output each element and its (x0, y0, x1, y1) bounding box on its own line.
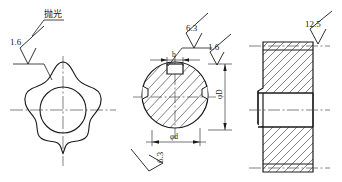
roughness-label-5: 12.5 (305, 19, 321, 29)
bore-diameter-label: φd (170, 132, 178, 141)
roughness-label-4: 6.3 (155, 151, 165, 163)
front-view-knob: 1.6 抛光 (10, 8, 116, 166)
roughness-label-2: 6.3 (186, 23, 198, 33)
shaft-right-notch (202, 86, 208, 99)
knob-finish-leader-line (13, 64, 52, 80)
polish-note-label: 抛光 (44, 8, 62, 19)
roughness-label-1: 1.6 (10, 37, 22, 47)
hub-bore-cavity (259, 94, 312, 126)
roughness-symbol-1 (20, 26, 44, 64)
section-view-shaft: b 6.3 1.6 φD (100, 13, 240, 182)
outer-diameter-label: φD (215, 89, 224, 99)
engineering-drawing-canvas: 1.6 抛光 (0, 0, 342, 182)
shaft-keyway-slot (167, 64, 183, 74)
roughness-label-3: 1.6 (208, 42, 220, 52)
side-section-view: 12.5 (249, 11, 332, 182)
